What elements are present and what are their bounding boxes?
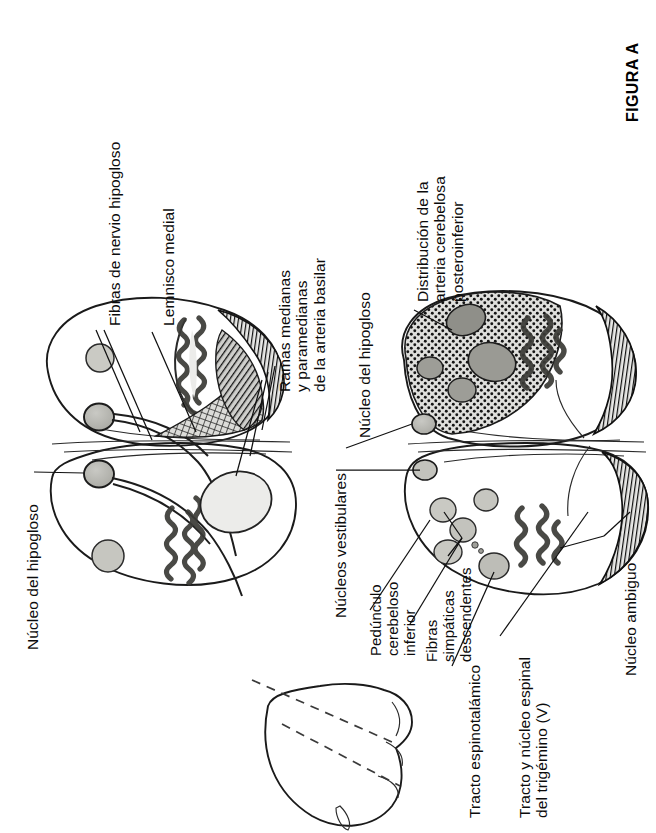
upper-medulla-section	[47, 298, 296, 596]
label-nucleo-hipogloso-central: Núcleo del hipogloso	[356, 292, 373, 438]
inferior-olive-ventral-right	[517, 506, 563, 565]
section-line-upper	[252, 680, 392, 742]
anatomy-illustration	[0, 0, 656, 833]
label-nucleo-ambiguo: Núcleo ambiguo	[622, 563, 639, 676]
brainstem-inset	[252, 680, 412, 830]
label-fibras-simpaticas-descendentes: Fibras simpáticas descendentes	[424, 567, 474, 662]
nucleus-e	[479, 553, 509, 579]
dorsal-nucleus-upper	[86, 344, 114, 372]
label-nucleo-hipogloso-izquierdo: Núcleo del hipogloso	[24, 504, 41, 650]
figure-page: Fibras de nervio hipogloso Lemnisco medi…	[0, 0, 656, 833]
nucleus-d	[474, 489, 498, 511]
label-nucleos-vestibulares: Núcleos vestibulares	[332, 473, 349, 618]
vestibular-nucleus	[412, 414, 436, 434]
section-line-lower	[282, 724, 400, 786]
label-ramas-medianas-paramedianas: Ramas medianas y paramedianas de la arte…	[276, 258, 328, 392]
label-distribucion-arteria-cerebelosa-posteroinferior: Distribución de la arteria cerebelosa po…	[414, 176, 466, 302]
lower-medulla-section	[402, 291, 648, 594]
label-lemnisco-medial: Lemnisco medial	[160, 208, 177, 326]
label-pedunculo-cerebeloso-inferior: Pedúnculo cerebeloso inferior	[368, 582, 418, 656]
nucleus-a	[430, 498, 456, 522]
label-tracto-nucleo-espinal-trigemino: Tracto y núcleo espinal del trigémino (V…	[516, 657, 551, 818]
label-fibras-nervio-hipogloso: Fibras de nervio hipogloso	[106, 142, 123, 326]
label-tracto-espinotalamico: Tracto espinotalámico	[466, 665, 483, 818]
pyramid-dorsal-right	[594, 306, 636, 434]
figure-tag: FIGURA A	[624, 43, 642, 122]
dorsal-nucleus-lower	[92, 540, 124, 572]
nucleus-b	[450, 518, 476, 542]
hypoglossal-nucleus-upper	[84, 404, 114, 431]
hypoglossal-nucleus-lower	[84, 461, 114, 488]
